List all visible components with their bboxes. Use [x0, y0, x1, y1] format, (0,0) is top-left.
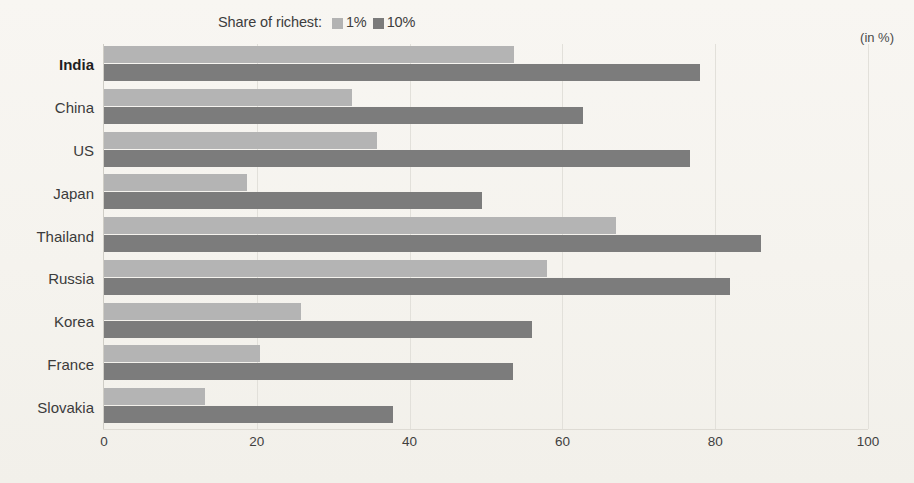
x-axis-tick-80: 80 [708, 434, 723, 449]
y-axis-label-korea: Korea [0, 313, 94, 330]
bar-group [104, 215, 868, 258]
legend-entry-1pct: 1% [332, 14, 367, 30]
x-axis-tick-0: 0 [100, 434, 108, 449]
legend-swatch-1pct-icon [332, 18, 343, 29]
chart-container: Share of richest: 1% 10% (in %) IndiaChi… [0, 0, 914, 483]
y-axis-label-china: China [0, 99, 94, 116]
bar-1pct [104, 174, 247, 191]
legend-title: Share of richest: [218, 14, 322, 30]
chart-legend: Share of richest: 1% 10% [218, 14, 415, 30]
y-axis-label-japan: Japan [0, 185, 94, 202]
x-axis-tick-20: 20 [249, 434, 264, 449]
x-axis-tick-60: 60 [555, 434, 570, 449]
bar-group [104, 386, 868, 429]
bar-group [104, 343, 868, 386]
unit-note: (in %) [860, 30, 894, 45]
legend-label-10pct: 10% [387, 14, 416, 30]
legend-entry-10pct: 10% [373, 14, 416, 30]
bar-1pct [104, 217, 616, 234]
bar-10pct [104, 321, 532, 338]
bar-group [104, 130, 868, 173]
bar-group [104, 87, 868, 130]
bar-group [104, 301, 868, 344]
x-axis-tick-100: 100 [857, 434, 880, 449]
y-axis-labels: IndiaChinaUSJapanThailandRussiaKoreaFran… [0, 44, 94, 429]
x-axis-line [103, 429, 868, 430]
y-axis-label-russia: Russia [0, 270, 94, 287]
y-axis-label-india: India [0, 56, 94, 73]
bar-group [104, 258, 868, 301]
gridline-100 [868, 44, 869, 429]
bar-10pct [104, 363, 513, 380]
bar-10pct [104, 235, 761, 252]
bar-10pct [104, 192, 482, 209]
bar-group [104, 172, 868, 215]
bar-1pct [104, 132, 377, 149]
bar-1pct [104, 260, 547, 277]
bar-10pct [104, 278, 730, 295]
y-axis-label-france: France [0, 356, 94, 373]
y-axis-label-thailand: Thailand [0, 228, 94, 245]
x-axis-labels: 020406080100 [104, 434, 868, 458]
bar-group [104, 44, 868, 87]
bar-1pct [104, 388, 205, 405]
bar-1pct [104, 303, 301, 320]
bar-10pct [104, 150, 690, 167]
plot-area [104, 44, 868, 429]
legend-label-1pct: 1% [346, 14, 367, 30]
bar-10pct [104, 107, 583, 124]
bar-10pct [104, 406, 393, 423]
legend-swatch-10pct-icon [373, 18, 384, 29]
y-axis-label-us: US [0, 142, 94, 159]
bar-1pct [104, 89, 352, 106]
bar-10pct [104, 64, 700, 81]
x-axis-tick-40: 40 [402, 434, 417, 449]
bar-1pct [104, 46, 514, 63]
bar-1pct [104, 345, 260, 362]
y-axis-label-slovakia: Slovakia [0, 399, 94, 416]
